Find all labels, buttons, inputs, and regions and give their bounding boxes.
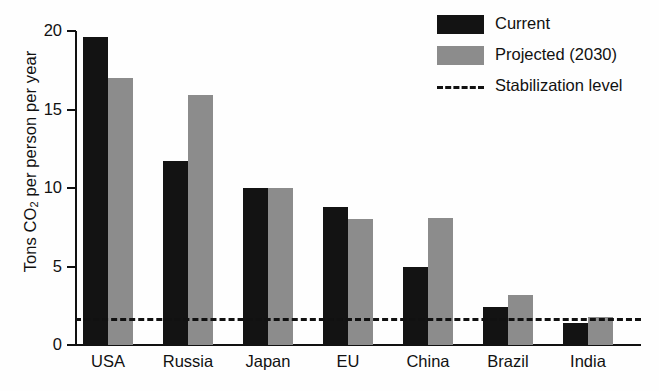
co2-emissions-bar-chart: Tons CO2 per person per year 05101520 US… xyxy=(0,0,659,391)
bar-india-current xyxy=(563,323,588,345)
bar-eu-projected-2030 xyxy=(348,219,373,345)
bar-japan-projected-2030 xyxy=(268,188,293,345)
chart-legend: Current Projected (2030) Stabilization l… xyxy=(437,12,652,105)
legend-item-projected: Projected (2030) xyxy=(437,43,652,70)
y-axis-tick-label: 10 xyxy=(22,179,62,195)
y-axis-label-subscript: 2 xyxy=(28,201,40,207)
legend-label-current: Current xyxy=(495,14,550,33)
bar-brazil-current xyxy=(483,307,508,345)
bar-china-current xyxy=(403,267,428,346)
legend-item-stabilization: Stabilization level xyxy=(437,74,652,101)
legend-dashed-line-icon xyxy=(437,86,484,89)
y-axis-tick-label: 0 xyxy=(22,336,62,352)
legend-label-stabilization: Stabilization level xyxy=(495,76,623,95)
bar-russia-projected-2030 xyxy=(188,95,213,345)
legend-item-current: Current xyxy=(437,12,652,39)
y-axis-tick-label: 20 xyxy=(22,22,62,38)
stabilization-level-line xyxy=(75,318,641,321)
bar-japan-current xyxy=(243,188,268,345)
y-axis-label-container: Tons CO2 per person per year xyxy=(0,0,34,345)
bar-usa-projected-2030 xyxy=(108,78,133,345)
legend-swatch-current-icon xyxy=(437,15,484,34)
y-axis-tick-label: 5 xyxy=(22,258,62,274)
bar-eu-current xyxy=(323,207,348,345)
y-axis-tick-label: 15 xyxy=(22,101,62,117)
legend-swatch-projected-icon xyxy=(437,46,484,65)
legend-label-projected: Projected (2030) xyxy=(495,45,617,64)
bar-usa-current xyxy=(83,37,108,345)
bar-china-projected-2030 xyxy=(428,218,453,345)
x-axis-tick-label-india: India xyxy=(533,352,643,371)
